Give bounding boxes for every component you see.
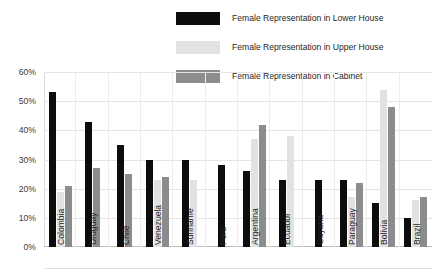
bar-cluster <box>117 72 132 247</box>
bar-group <box>206 72 238 247</box>
x-axis-label: Guyana <box>315 215 325 245</box>
bar[interactable] <box>243 171 250 247</box>
y-axis-tick-30: 30% <box>19 155 36 165</box>
bar[interactable] <box>372 203 379 247</box>
bar[interactable] <box>404 218 411 247</box>
x-axis-label: Peru <box>218 227 228 245</box>
legend-item-lower-house: Female Representation in Lower House <box>176 8 436 29</box>
bar-group <box>400 72 432 247</box>
bar-cluster <box>404 72 427 247</box>
bar[interactable] <box>49 92 56 247</box>
bar-chart: Female Representation in Lower House Fem… <box>0 0 440 271</box>
y-axis-tick-20: 20% <box>19 184 36 194</box>
x-axis-label: Ecuador <box>282 213 292 245</box>
plot-area <box>44 72 432 247</box>
legend-swatch-upper-house <box>176 41 220 54</box>
x-axis-label: Venezuela <box>153 205 163 245</box>
x-axis-label: Bolivia <box>379 220 389 245</box>
bar-cluster <box>218 72 225 247</box>
y-axis-labels: 60%50%40%30%20%10%0% <box>0 64 40 254</box>
footer-divider <box>44 268 432 269</box>
x-axis-label: Argentina <box>250 208 260 245</box>
x-axis-label: Suriname <box>185 208 195 245</box>
x-axis-label: Uruguay <box>88 213 98 245</box>
y-axis-tick-10: 10% <box>19 213 36 223</box>
bar[interactable] <box>340 180 347 247</box>
legend-label-upper-house: Female Representation in Upper House <box>232 43 383 52</box>
x-axis-label: Colombia <box>56 209 66 245</box>
x-axis-label: Brazil <box>412 224 422 246</box>
y-axis-tick-50: 50% <box>19 96 36 106</box>
y-axis-tick-40: 40% <box>19 125 36 135</box>
x-axis-label: Paraguay <box>347 208 357 245</box>
bar-group <box>109 72 141 247</box>
legend-item-upper-house: Female Representation in Upper House <box>176 37 436 58</box>
bar-groups <box>44 72 432 247</box>
legend-label-lower-house: Female Representation in Lower House <box>232 14 383 23</box>
bar[interactable] <box>146 160 153 248</box>
x-axis-label: Chile <box>121 225 131 245</box>
y-axis-tick-0: 0% <box>24 242 36 252</box>
y-axis-tick-60: 60% <box>19 67 36 77</box>
legend-swatch-lower-house <box>176 12 220 25</box>
